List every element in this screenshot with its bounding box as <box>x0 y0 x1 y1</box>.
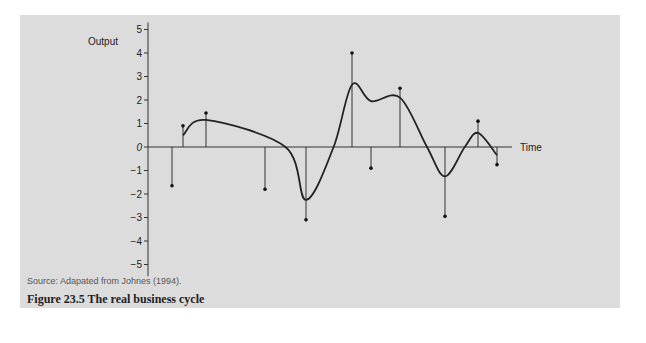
y-tick-label: −3 <box>131 212 143 223</box>
y-tick-label: 3 <box>136 71 142 82</box>
y-tick-label: −1 <box>131 165 143 176</box>
stem-dot <box>263 188 267 192</box>
y-tick-label: 2 <box>136 95 142 106</box>
y-tick-label: 5 <box>136 24 142 35</box>
y-tick-label: 1 <box>136 118 142 129</box>
stem-dot <box>350 51 354 55</box>
y-tick-label: −2 <box>131 189 143 200</box>
stem-dot <box>181 124 185 128</box>
y-tick-label: −5 <box>131 259 143 270</box>
stem-dot <box>170 184 174 188</box>
y-axis-title: Output <box>88 36 118 47</box>
y-tick-label: 4 <box>136 48 142 59</box>
stem-dot <box>204 111 208 115</box>
stem-dot <box>443 215 447 219</box>
stem-dot <box>369 166 373 170</box>
stem-dot <box>304 218 308 222</box>
stem-dot <box>495 163 499 167</box>
stem-dot <box>398 86 402 90</box>
stem-dot <box>476 119 480 123</box>
y-tick-label: 0 <box>136 142 142 153</box>
x-axis-title: Time <box>520 142 542 153</box>
figure-caption: Figure 23.5 The real business cycle <box>27 292 204 307</box>
axes: 543210−1−2−3−4−5 <box>131 22 512 276</box>
output-curve <box>183 83 497 200</box>
y-tick-label: −4 <box>131 236 143 247</box>
figure-source: Source: Adapated from Johnes (1994). <box>27 276 182 286</box>
stems <box>170 51 499 221</box>
